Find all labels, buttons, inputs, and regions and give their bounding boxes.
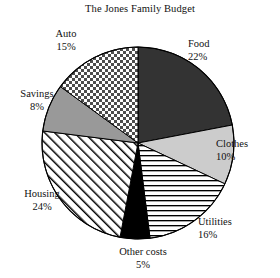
slice-label-housing: Housing 24% <box>8 188 76 213</box>
slice-label-clothes-name: Clothes <box>216 138 278 151</box>
slice-label-utilities-name: Utilities <box>198 216 266 229</box>
slice-label-utilities: Utilities 16% <box>198 216 266 241</box>
slice-label-savings-percent: 8% <box>6 101 68 114</box>
pie-chart-figure: The Jones Family Budget Auto 15% Food 22 <box>0 0 280 278</box>
slice-label-other-costs-percent: 5% <box>96 259 190 272</box>
slice-label-clothes-percent: 10% <box>216 151 278 164</box>
slice-label-other-costs-name: Other costs <box>96 246 190 259</box>
slice-label-food-name: Food <box>188 38 250 51</box>
slice-label-other-costs: Other costs 5% <box>96 246 190 271</box>
slice-label-savings: Savings 8% <box>6 88 68 113</box>
slice-label-food: Food 22% <box>188 38 250 63</box>
slice-label-clothes: Clothes 10% <box>216 138 278 163</box>
slice-label-food-percent: 22% <box>188 51 250 64</box>
slice-label-savings-name: Savings <box>6 88 68 101</box>
slice-label-auto: Auto 15% <box>32 28 100 53</box>
slice-label-auto-percent: 15% <box>32 41 100 54</box>
slice-label-housing-percent: 24% <box>8 201 76 214</box>
slice-label-utilities-percent: 16% <box>198 229 266 242</box>
slice-label-housing-name: Housing <box>8 188 76 201</box>
slice-label-auto-name: Auto <box>32 28 100 41</box>
